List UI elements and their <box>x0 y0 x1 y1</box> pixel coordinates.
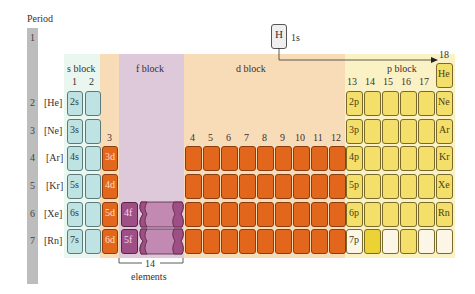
p-cell <box>382 229 399 254</box>
p-cell <box>400 91 417 116</box>
group-9: 9 <box>280 133 285 143</box>
p-cell <box>400 174 417 199</box>
p-cell <box>418 91 435 116</box>
d-cell <box>329 174 346 199</box>
cell-p-subshell: 2p <box>346 91 363 116</box>
p-cell <box>418 229 435 254</box>
period-axis-label: Period <box>27 14 53 24</box>
cell-5d: 5d <box>102 202 118 227</box>
d-cell <box>239 202 256 227</box>
d-cell <box>329 146 346 171</box>
d-block-label: d block <box>236 64 266 74</box>
p-cell <box>364 174 381 199</box>
d-cell <box>221 202 238 227</box>
cell-2s: 2s <box>67 91 83 116</box>
d-cell <box>203 146 220 171</box>
element-symbol: Rn <box>438 207 450 218</box>
p-cell <box>400 229 417 254</box>
cell-3d: 3d <box>102 146 118 171</box>
d-cell <box>203 174 220 199</box>
p-cell <box>400 146 417 171</box>
cell-s <box>85 202 101 227</box>
cell-period7-group18 <box>436 229 453 254</box>
element-symbol: Ar <box>439 124 450 135</box>
core-rn: [Rn] <box>44 236 62 246</box>
group-12: 12 <box>331 133 341 143</box>
p-cell <box>400 119 417 144</box>
p-cell <box>418 174 435 199</box>
group-10: 10 <box>295 133 305 143</box>
p-cell <box>382 146 399 171</box>
cell-6s: 6s <box>67 202 83 227</box>
p-cell <box>382 91 399 116</box>
subshell-label: 7s <box>70 234 79 245</box>
period-6: 6 <box>27 209 38 219</box>
subshell-label: 5d <box>105 207 115 218</box>
p-cell <box>418 146 435 171</box>
d-cell <box>221 146 238 171</box>
cell-rn: Rn <box>436 202 453 227</box>
p-cell <box>364 119 381 144</box>
d-cell <box>329 202 346 227</box>
cell-4f: 4f <box>121 202 138 227</box>
group-4: 4 <box>190 133 195 143</box>
core-xe: [Xe] <box>44 209 62 219</box>
core-kr: [Kr] <box>46 181 63 191</box>
cell-p-subshell: 6p <box>346 202 363 227</box>
group-17: 17 <box>419 77 429 87</box>
group-1: 1 <box>72 77 77 87</box>
hydrogen-cell: H <box>271 24 287 49</box>
d-cell <box>293 174 310 199</box>
cell-s <box>85 174 101 199</box>
d-cell <box>311 146 328 171</box>
p-cell <box>382 202 399 227</box>
d-cell <box>239 229 256 254</box>
subshell-label: 4s <box>70 151 79 162</box>
d-cell <box>203 229 220 254</box>
p-cell <box>382 119 399 144</box>
p-cell <box>400 202 417 227</box>
d-cell <box>257 229 274 254</box>
cell-6d: 6d <box>102 229 118 254</box>
element-symbol: Xe <box>438 179 450 190</box>
group-2: 2 <box>89 77 94 87</box>
cell-he: He <box>436 63 453 88</box>
d-cell <box>311 229 328 254</box>
p-cell <box>418 119 435 144</box>
cell-kr: Kr <box>436 146 453 171</box>
subshell-label: 5f <box>124 234 132 245</box>
p-block-label: p block <box>387 64 417 74</box>
period-1: 1 <box>27 33 38 43</box>
d-cell <box>185 202 202 227</box>
cell-5s: 5s <box>67 174 83 199</box>
cell-p-subshell: 3p <box>346 119 363 144</box>
f-block-break-icon <box>138 201 186 256</box>
core-ar: [Ar] <box>46 153 63 163</box>
subshell-label: 6d <box>105 234 115 245</box>
period-3: 3 <box>27 126 38 136</box>
group-11: 11 <box>313 133 323 143</box>
group-15: 15 <box>383 77 393 87</box>
group-7: 7 <box>244 133 249 143</box>
subshell-label: 4d <box>105 179 115 190</box>
p-cell <box>382 174 399 199</box>
f-count-label: elements <box>131 272 167 282</box>
period-4: 4 <box>27 153 38 163</box>
cell-ne: Ne <box>436 91 453 116</box>
p-cell <box>364 202 381 227</box>
group-8: 8 <box>262 133 267 143</box>
d-cell <box>293 229 310 254</box>
p-cell <box>364 229 381 254</box>
cell-p-subshell: 5p <box>346 174 363 199</box>
d-cell <box>239 174 256 199</box>
p-cell <box>364 91 381 116</box>
d-cell <box>185 229 202 254</box>
subshell-label: 3s <box>70 124 79 135</box>
group-14: 14 <box>365 77 375 87</box>
cell-4s: 4s <box>67 146 83 171</box>
d-cell <box>329 229 346 254</box>
d-cell <box>275 202 292 227</box>
subshell-label: 2p <box>349 96 359 107</box>
element-symbol: Ne <box>438 96 450 107</box>
core-ne: [Ne] <box>44 126 62 136</box>
